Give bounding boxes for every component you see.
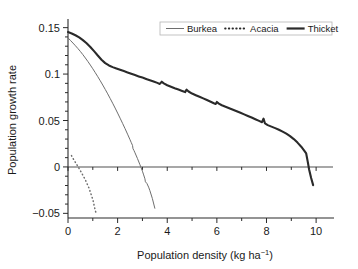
- series-line-acacia: [71, 156, 96, 214]
- population-growth-rate-chart: −0.0500.050.10.150246810 Population grow…: [0, 0, 358, 269]
- series-line-burkea: [68, 38, 155, 208]
- series-line-thicket: [68, 32, 313, 185]
- x-tick-label: 0: [65, 225, 71, 237]
- chart-figure: −0.0500.050.10.150246810 Population grow…: [0, 0, 358, 269]
- x-tick-label: 6: [214, 225, 220, 237]
- legend-label-thicket[interactable]: Thicket: [308, 23, 339, 34]
- x-tick-label: 2: [115, 225, 121, 237]
- y-tick-label: 0.15: [39, 22, 60, 34]
- y-axis-title: Population growth rate: [6, 65, 18, 175]
- x-axis-title: Population density (kg ha−1): [137, 248, 273, 261]
- ticks-layer: [63, 28, 316, 223]
- x-tick-label: 4: [164, 225, 170, 237]
- y-tick-label: 0: [54, 161, 60, 173]
- axes-layer: [68, 19, 334, 218]
- y-tick-label: 0.1: [45, 68, 60, 80]
- legend-label-burkea[interactable]: Burkea: [187, 23, 218, 34]
- legend-label-acacia[interactable]: Acacia: [250, 23, 279, 34]
- x-tick-label: 10: [310, 225, 322, 237]
- y-tick-label: 0.05: [39, 115, 60, 127]
- series-layer: [68, 32, 313, 213]
- x-tick-label: 8: [263, 225, 269, 237]
- legend-box: [160, 22, 332, 35]
- y-tick-label: −0.05: [32, 207, 60, 219]
- chart-legend[interactable]: BurkeaAcaciaThicket: [160, 22, 339, 35]
